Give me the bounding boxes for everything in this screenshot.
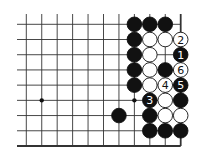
move-number: 4: [162, 79, 169, 92]
white-stone: [143, 78, 158, 93]
black-stone: [173, 123, 188, 138]
black-stone: [143, 108, 158, 123]
black-stone-3: 3: [143, 93, 158, 108]
black-stone: [143, 17, 158, 32]
black-stone: [112, 108, 127, 123]
black-stone: [127, 47, 142, 62]
move-number: 3: [146, 94, 153, 107]
black-stone: [143, 123, 158, 138]
black-stone-5: 5: [173, 78, 188, 93]
black-stone: [127, 17, 142, 32]
black-stone: [158, 17, 173, 32]
black-stone: [127, 63, 142, 78]
black-stone: [173, 93, 188, 108]
move-number: 6: [177, 64, 184, 77]
black-stone: [127, 32, 142, 47]
white-stone-2: 2: [173, 32, 188, 47]
white-stone: [173, 108, 188, 123]
black-stone: [127, 78, 142, 93]
white-stone: [158, 93, 173, 108]
move-number: 1: [177, 49, 184, 62]
board-grid: [17, 14, 181, 146]
white-stone-4: 4: [158, 78, 173, 93]
star-point: [40, 98, 44, 102]
white-stone-6: 6: [173, 63, 188, 78]
white-stone: [143, 47, 158, 62]
black-stone-1: 1: [173, 47, 188, 62]
move-number: 5: [177, 79, 184, 92]
go-board: 216453: [0, 0, 202, 161]
stones: 216453: [112, 17, 188, 138]
move-number: 2: [177, 34, 184, 47]
black-stone: [158, 63, 173, 78]
white-stone: [158, 32, 173, 47]
star-point: [132, 98, 136, 102]
white-stone: [158, 108, 173, 123]
black-stone: [158, 123, 173, 138]
white-stone: [143, 63, 158, 78]
white-stone: [143, 32, 158, 47]
